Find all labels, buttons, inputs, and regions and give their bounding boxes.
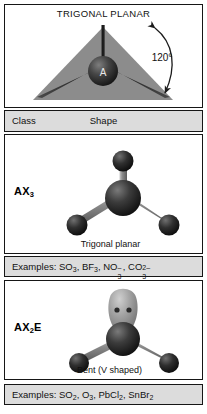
lone-pair-electron-dot-right xyxy=(126,307,131,312)
ax2e-shape-caption: Bent (V shaped) xyxy=(5,365,202,375)
formula-pbcl2: PbCl2 xyxy=(99,389,124,400)
formula-o3: O3 xyxy=(82,389,93,400)
angle-label: 120° xyxy=(152,52,173,63)
formula-no3-minus: NO3– xyxy=(103,261,123,272)
lone-pair-electron-dot-left xyxy=(114,307,119,312)
table-header-row: Class Shape xyxy=(4,110,203,132)
formula-snbr2: SnBr2 xyxy=(128,389,153,400)
examples-row-ax2e: Examples: SO2, O3, PbCl2, SnBr2 xyxy=(4,384,203,405)
ax2e-central-atom xyxy=(106,322,140,356)
ax3-outer-atom-left xyxy=(67,215,88,236)
vsepr-geometry-figure: TRIGONAL PLANAR xyxy=(0,0,207,414)
column-header-shape: Shape xyxy=(5,115,202,126)
formula-co3-2minus: CO32– xyxy=(128,261,150,272)
central-atom-label: A xyxy=(100,67,107,78)
ax3-outer-atom-top xyxy=(113,151,134,172)
ax3-central-atom xyxy=(105,180,141,216)
examples-row-ax3: Examples: SO3, BF3, NO3– , CO32– xyxy=(4,256,203,277)
ax3-molecule-model xyxy=(5,135,202,253)
examples-text-ax2e: Examples: SO2, O3, PbCl2, SnBr2 xyxy=(12,389,153,400)
row-ax2e-shape-panel: AX2E xyxy=(4,280,203,380)
formula-bf3: BF3 xyxy=(82,261,98,272)
formula-so3: SO3 xyxy=(59,261,77,272)
trigonal-planar-diagram-svg: A 120° xyxy=(5,5,202,107)
formula-so2: SO2 xyxy=(59,389,77,400)
examples-text-ax3: Examples: SO3, BF3, NO3– , CO32– xyxy=(12,261,150,272)
examples-prefix-ax3: Examples: xyxy=(12,261,56,272)
ax3-outer-atom-right xyxy=(159,215,180,236)
row-ax3-shape-panel: AX3 xyxy=(4,134,203,254)
trigonal-planar-diagram-panel: TRIGONAL PLANAR xyxy=(4,4,203,108)
ax3-shape-caption: Trigonal planar xyxy=(5,239,202,249)
examples-prefix-ax2e: Examples: xyxy=(12,389,56,400)
